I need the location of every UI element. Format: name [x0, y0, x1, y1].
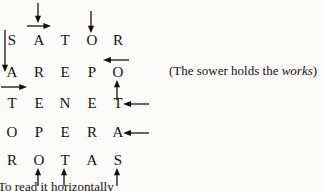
- letter-tenet-3: N: [57, 96, 73, 111]
- letter-sator-2: A: [31, 33, 47, 48]
- arrow-left-right-of-arepo-col5-icon: [103, 55, 129, 65]
- letter-sator-5: R: [110, 33, 126, 48]
- letter-opera-1: O: [4, 125, 20, 140]
- letter-opera-4: R: [84, 125, 100, 140]
- letter-arepo-3: E: [57, 65, 73, 80]
- letter-arepo-2: R: [31, 65, 47, 80]
- translation-caption: (The sower holds the works): [156, 51, 317, 90]
- caption-italic-word: works: [282, 63, 313, 78]
- letter-opera-2: P: [31, 125, 47, 140]
- letter-rotas-4: A: [84, 153, 100, 168]
- arrow-left-right-of-opera-col5-icon: [123, 128, 149, 138]
- letter-arepo-5: O: [110, 65, 126, 80]
- letter-rotas-1: R: [4, 153, 20, 168]
- letter-sator-3: T: [57, 33, 73, 48]
- letter-opera-3: E: [57, 125, 73, 140]
- letter-rotas-2: O: [31, 153, 47, 168]
- caption-close-paren: ): [313, 63, 317, 78]
- letter-tenet-2: E: [31, 96, 47, 111]
- letter-rotas-3: T: [57, 153, 73, 168]
- arrow-down-above-col4-icon: [86, 11, 96, 33]
- sator-square-figure: S A T O R A R E P O T E N E T O P E R A …: [0, 0, 325, 191]
- arrow-down-left-of-sator-col1-icon: [0, 30, 10, 72]
- letter-sator-4: O: [84, 33, 100, 48]
- letter-rotas-5: S: [110, 153, 126, 168]
- letter-tenet-4: E: [84, 96, 100, 111]
- arrow-down-above-col2-icon: [33, 3, 43, 23]
- arrow-left-right-of-tenet-col5-icon: [123, 99, 149, 109]
- arrow-right-above-sator-col2-icon: [27, 21, 51, 31]
- letter-tenet-1: T: [4, 96, 20, 111]
- arrow-right-below-arepo-col1-icon: [1, 82, 27, 92]
- footer-text: To read it horizontally: [0, 180, 114, 191]
- arrow-up-below-arepo-col5-icon: [112, 80, 122, 100]
- letter-arepo-4: P: [84, 65, 100, 80]
- caption-text: The sower holds the: [173, 63, 281, 78]
